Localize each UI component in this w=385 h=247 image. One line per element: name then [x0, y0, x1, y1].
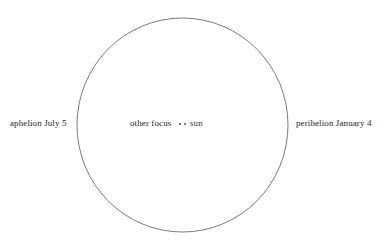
other-focus-dot-icon — [179, 123, 181, 125]
aphelion-label: aphelion July 5 — [10, 118, 67, 129]
other-focus-label: other focus — [130, 118, 171, 129]
sun-dot-icon — [184, 123, 186, 125]
sun-label: sun — [190, 118, 203, 129]
perihelion-label: perihelion January 4 — [296, 118, 371, 129]
orbit-ellipse — [77, 18, 288, 232]
orbit-diagram: aphelion July 5 other focus sun periheli… — [0, 0, 385, 247]
